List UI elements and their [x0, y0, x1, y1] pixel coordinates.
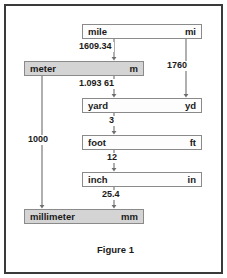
unit-symbol-yard: yd: [185, 101, 196, 111]
unit-name-yard: yard: [88, 101, 108, 111]
factor-label-mile-to-meter: 1609.34: [77, 42, 114, 52]
unit-conversion-diagram: mile mi meter m yard yd foot ft inch in …: [6, 6, 221, 272]
unit-name-mile: mile: [88, 27, 107, 37]
unit-box-meter[interactable]: meter m: [24, 61, 144, 76]
unit-box-millimeter[interactable]: millimeter mm: [24, 209, 144, 224]
factor-label-yard-to-foot: 3: [107, 116, 116, 126]
unit-name-inch: inch: [88, 175, 108, 185]
unit-name-millimeter: millimeter: [30, 212, 75, 222]
unit-symbol-foot: ft: [190, 138, 196, 148]
figure-frame: mile mi meter m yard yd foot ft inch in …: [4, 4, 223, 274]
unit-box-yard[interactable]: yard yd: [82, 98, 202, 113]
unit-name-meter: meter: [30, 64, 56, 74]
unit-symbol-inch: in: [188, 175, 196, 185]
unit-symbol-millimeter: mm: [121, 212, 138, 222]
unit-box-mile[interactable]: mile mi: [82, 24, 202, 39]
unit-symbol-meter: m: [130, 64, 138, 74]
factor-label-meter-to-millimeter: 1000: [26, 135, 50, 145]
unit-box-foot[interactable]: foot ft: [82, 135, 202, 150]
figure-caption: Figure 1: [6, 244, 225, 255]
factor-label-foot-to-inch: 12: [105, 153, 119, 163]
factor-label-inch-to-millimeter: 25.4: [100, 190, 122, 200]
factor-label-mile-to-yard: 1760: [165, 61, 189, 71]
unit-name-foot: foot: [88, 138, 106, 148]
factor-label-meter-to-yard: 1.093 61: [77, 79, 116, 89]
unit-symbol-mile: mi: [185, 27, 196, 37]
unit-box-inch[interactable]: inch in: [82, 172, 202, 187]
